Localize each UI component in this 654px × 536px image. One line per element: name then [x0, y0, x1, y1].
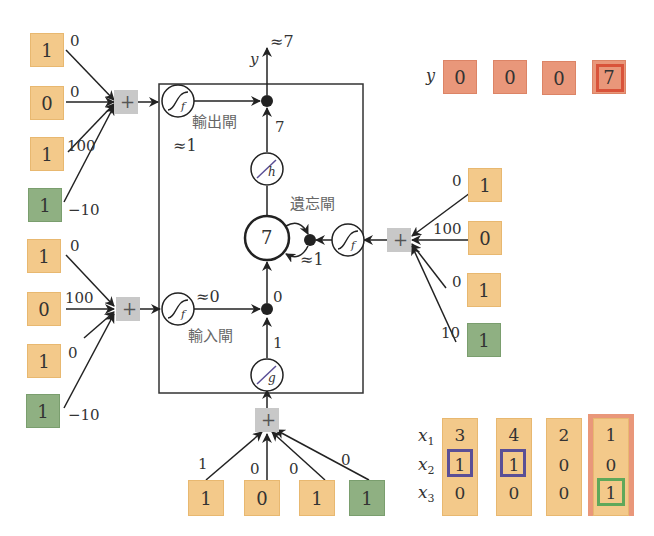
- weight-label: 100: [65, 289, 94, 307]
- cell-input-cell: 1: [299, 480, 335, 516]
- x-value: 0: [547, 455, 581, 475]
- y-sequence-value: 7: [603, 67, 614, 88]
- input-gate-input-cell: 1: [27, 344, 61, 378]
- x-row-label: x2: [418, 454, 435, 477]
- output-gate-sigmoid-icon: [162, 85, 194, 117]
- sum-symbol: +: [122, 298, 137, 319]
- weight-label: 100: [67, 137, 96, 155]
- sum-symbol: +: [261, 409, 276, 430]
- g-output-value: 1: [273, 334, 283, 352]
- x-value: 0: [497, 483, 531, 503]
- x-value: 0: [594, 455, 628, 475]
- input-gate-sigmoid-icon: [162, 293, 194, 325]
- input-gate-input-cell: 0: [27, 292, 61, 326]
- weight-label: −10: [68, 406, 100, 424]
- sum-symbol: +: [120, 91, 135, 112]
- h-output-value: 7: [275, 118, 285, 136]
- f-label: f: [181, 308, 185, 321]
- forget-gate-label: 遺忘閘: [290, 192, 335, 213]
- weight-label: 0: [70, 83, 80, 101]
- f-label: f: [181, 100, 185, 113]
- h-label: h: [268, 165, 276, 179]
- x-value: 0: [443, 483, 477, 503]
- output-y-label: y: [250, 50, 258, 68]
- weight-label: 10: [441, 324, 460, 342]
- forget-gate-input-cell: 0: [468, 221, 502, 255]
- forget-gate-sigmoid-icon: [332, 224, 364, 256]
- weight-label: 0: [452, 172, 462, 190]
- input-gate-bias-cell: 1: [26, 394, 60, 428]
- weight-label: 0: [341, 451, 351, 469]
- input-gate-label: 輸入閘: [188, 324, 233, 345]
- forget-gate-input-cell: 1: [468, 168, 502, 202]
- x-row-label: x1: [418, 425, 435, 448]
- weight-label: 0: [289, 460, 299, 478]
- forget-gate-bias-cell: 1: [467, 323, 501, 357]
- x-sequence-column: 2 0 0: [546, 418, 582, 516]
- output-gate-input-cell: 1: [30, 33, 64, 67]
- weight-label: 0: [68, 344, 78, 362]
- x-value: 0: [547, 483, 581, 503]
- weight-label: −10: [68, 201, 100, 219]
- y-sequence-cell-highlighted: 7: [592, 60, 626, 94]
- y-sequence-cell: 0: [542, 61, 576, 95]
- x-row-label: x3: [418, 482, 435, 505]
- output-gate-bias-cell: 1: [28, 188, 62, 222]
- weight-label: 0: [250, 460, 260, 478]
- input-gate-input-cell: 1: [27, 239, 61, 273]
- forget-multiply-dot: [304, 234, 316, 246]
- forget-gate-value: ≈1: [300, 250, 324, 269]
- memory-value: 7: [261, 227, 272, 248]
- output-gate-input-cell: 1: [30, 137, 64, 171]
- y-sequence-label: y: [426, 66, 435, 85]
- x2-highlight-box: [447, 449, 473, 477]
- output-gate-label: 輸出閘: [192, 110, 237, 131]
- input-gate-value: ≈0: [196, 287, 220, 306]
- x-value: 2: [547, 425, 581, 445]
- output-gate-value: ≈1: [173, 136, 197, 155]
- cell-input-bias-cell: 1: [349, 480, 385, 516]
- f-label: f: [351, 239, 355, 252]
- weight-label: 0: [70, 32, 80, 50]
- cell-input-cell: 1: [188, 480, 224, 516]
- x3-highlight-box: [597, 478, 625, 506]
- x2-highlight-box: [500, 449, 526, 477]
- y-sequence-cell: 0: [443, 60, 477, 94]
- sum-symbol: +: [393, 229, 408, 250]
- cell-input-cell: 0: [244, 480, 280, 516]
- output-y-value: ≈7: [270, 32, 294, 51]
- g-label: g: [268, 371, 276, 385]
- weight-label: 0: [452, 273, 462, 291]
- weight-label: 1: [198, 455, 208, 473]
- x-value: 3: [443, 425, 477, 445]
- input-multiply-dot: [261, 303, 273, 315]
- output-multiply-dot: [261, 95, 273, 107]
- x-value: 4: [497, 425, 531, 445]
- weight-label: 100: [433, 220, 462, 238]
- weight-label: 0: [70, 237, 80, 255]
- forget-gate-input-cell: 1: [467, 273, 501, 307]
- x-value: 1: [594, 425, 628, 445]
- y-sequence-cell: 0: [493, 60, 527, 94]
- after-input-gate-value: 0: [273, 288, 283, 306]
- output-gate-input-cell: 0: [30, 86, 64, 120]
